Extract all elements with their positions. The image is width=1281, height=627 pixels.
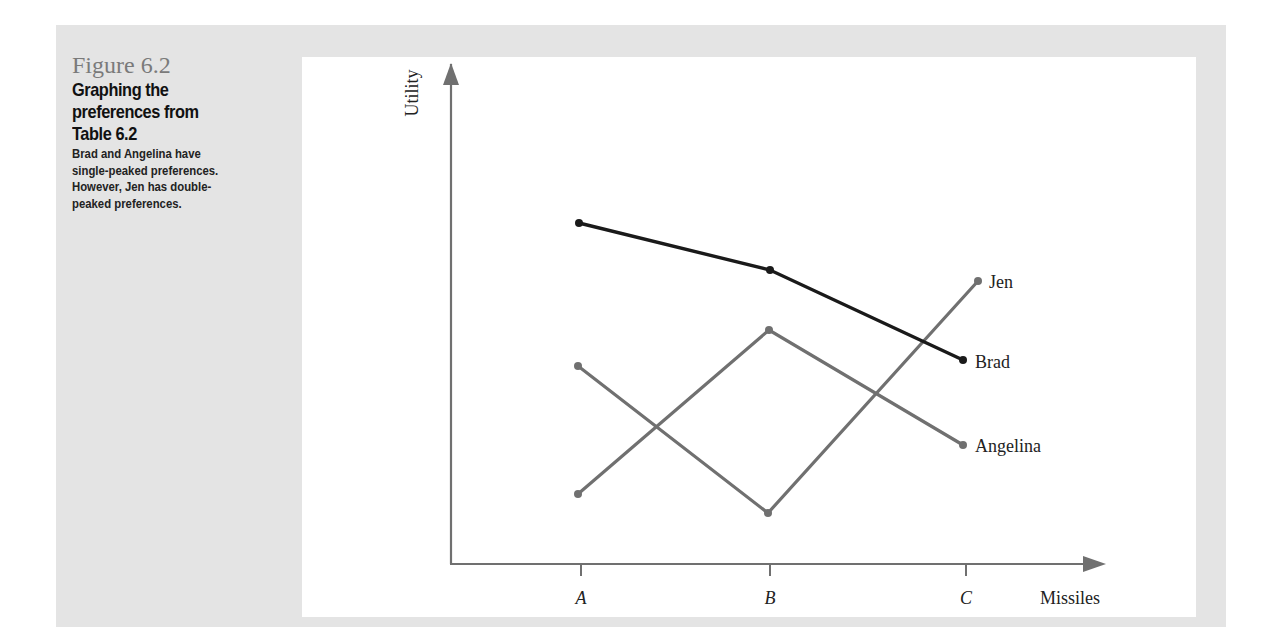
- angelina-point-c: [959, 441, 967, 449]
- y-axis-arrow-icon: [443, 63, 459, 85]
- line-chart: A B C Missiles Utility Jen Brad Angelina: [0, 0, 1281, 627]
- brad-line: [579, 223, 963, 360]
- series-label-brad: Brad: [975, 352, 1010, 372]
- series-label-angelina: Angelina: [975, 436, 1041, 456]
- jen-point-b: [764, 509, 772, 517]
- x-axis-label: Missiles: [1040, 588, 1100, 608]
- x-tick-label-a: A: [575, 588, 588, 608]
- x-axis-arrow-icon: [1083, 556, 1106, 572]
- x-tick-label-c: C: [960, 588, 973, 608]
- y-axis-label: Utility: [402, 69, 422, 116]
- series-jen: [574, 277, 982, 517]
- brad-point-c: [959, 356, 967, 364]
- axes: [443, 63, 1106, 576]
- brad-point-a: [575, 219, 583, 227]
- jen-line: [578, 281, 978, 513]
- brad-point-b: [766, 266, 774, 274]
- series-angelina: [574, 326, 967, 498]
- series-label-jen: Jen: [989, 272, 1013, 292]
- jen-point-a: [574, 362, 582, 370]
- angelina-point-b: [765, 326, 773, 334]
- series-brad: [575, 219, 967, 364]
- jen-point-c: [974, 277, 982, 285]
- x-tick-label-b: B: [765, 588, 776, 608]
- angelina-point-a: [574, 490, 582, 498]
